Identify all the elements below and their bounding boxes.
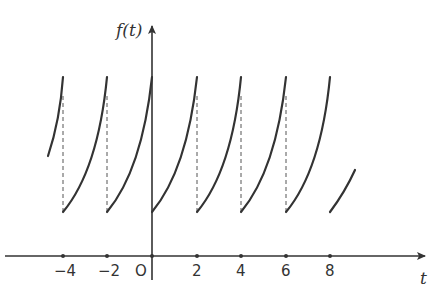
tick-label-neg2: −2 [98, 264, 120, 279]
tick-label-6: 6 [281, 264, 291, 279]
function-curve [48, 77, 355, 212]
tick-label-8: 8 [325, 264, 335, 279]
tick-label-2: 2 [192, 264, 202, 279]
function-plot [0, 0, 441, 289]
tick-label-4: 4 [236, 264, 246, 279]
x-axis-label: t [420, 270, 427, 287]
y-axis-label: f(t) [116, 22, 142, 39]
tick-label-neg4: −4 [54, 264, 76, 279]
origin-label: O [135, 264, 147, 279]
